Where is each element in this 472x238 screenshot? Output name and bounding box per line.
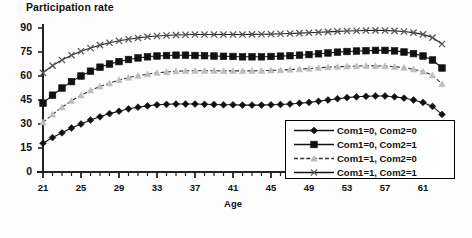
y-tick-label: 30 bbox=[6, 117, 32, 129]
y-tick-label: 60 bbox=[6, 69, 32, 81]
x-axis-title: Age bbox=[203, 198, 263, 209]
y-tick-label: 15 bbox=[6, 141, 32, 153]
legend-item-3: Com1=1, Com2=1 bbox=[292, 166, 417, 179]
legend-label: Com1=0, Com2=1 bbox=[337, 139, 417, 150]
x-tick-label: 21 bbox=[28, 182, 58, 193]
y-tick-label: 45 bbox=[6, 93, 32, 105]
x-tick-label: 49 bbox=[294, 182, 324, 193]
legend-label: Com1=1, Com2=0 bbox=[337, 153, 417, 164]
x-marker-icon bbox=[292, 166, 336, 179]
x-tick-label: 57 bbox=[370, 182, 400, 193]
x-tick-label: 53 bbox=[332, 182, 362, 193]
legend-item-0: Com1=0, Com2=0 bbox=[292, 124, 417, 137]
chart-legend: Com1=0, Com2=0 Com1=0, Com2=1 Com1=1, Co… bbox=[285, 120, 455, 179]
legend-label: Com1=0, Com2=0 bbox=[337, 125, 417, 136]
legend-item-2: Com1=1, Com2=0 bbox=[292, 152, 417, 165]
square-marker-icon bbox=[292, 138, 336, 151]
y-tick-label: 90 bbox=[6, 21, 32, 33]
x-tick-label: 45 bbox=[256, 182, 286, 193]
diamond-marker-icon bbox=[292, 124, 336, 137]
y-tick-label: 0 bbox=[6, 165, 32, 177]
x-tick-label: 33 bbox=[142, 182, 172, 193]
chart-figure: Participation rate 0153045607590 2125293… bbox=[0, 0, 472, 238]
x-tick-label: 61 bbox=[408, 182, 438, 193]
y-tick-label: 75 bbox=[6, 45, 32, 57]
legend-label: Com1=1, Com2=1 bbox=[337, 167, 417, 178]
triangle-marker-icon bbox=[292, 152, 336, 165]
x-tick-label: 37 bbox=[180, 182, 210, 193]
x-tick-label: 25 bbox=[66, 182, 96, 193]
legend-item-1: Com1=0, Com2=1 bbox=[292, 138, 417, 151]
x-tick-label: 29 bbox=[104, 182, 134, 193]
x-tick-label: 41 bbox=[218, 182, 248, 193]
